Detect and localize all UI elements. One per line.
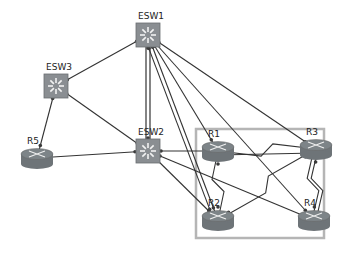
switch-icon	[136, 23, 160, 47]
device-label-r4: R4	[304, 199, 316, 208]
device-label-esw3: ESW3	[46, 63, 72, 72]
topology-canvas: ESW1ESW3ESW2R5R1R3R2R4	[0, 0, 358, 256]
device-label-r5: R5	[27, 137, 39, 146]
link-endpoint	[216, 162, 220, 166]
device-r2[interactable]	[202, 211, 234, 232]
link-endpoint	[314, 160, 318, 164]
device-label-r2: R2	[208, 199, 220, 208]
device-label-esw1: ESW1	[138, 12, 164, 21]
device-label-r3: R3	[306, 128, 318, 137]
link-esw3-esw2[interactable]	[56, 86, 148, 151]
link-esw1-esw3[interactable]	[56, 35, 148, 86]
link-esw2-r4[interactable]	[148, 151, 314, 220]
link-r2-r3[interactable]	[218, 149, 316, 220]
switch-icon	[136, 139, 160, 163]
link-r5-esw2[interactable]	[37, 150, 148, 159]
link-endpoint	[39, 144, 43, 148]
link-esw1-r4[interactable]	[148, 35, 314, 220]
link-esw1-r3[interactable]	[148, 35, 316, 149]
device-r5[interactable]	[21, 149, 53, 170]
switch-icon	[44, 74, 68, 98]
topology-diagram	[0, 0, 358, 256]
device-esw2[interactable]	[136, 139, 160, 163]
device-r1[interactable]	[202, 142, 234, 163]
device-esw3[interactable]	[44, 74, 68, 98]
device-label-esw2: ESW2	[138, 128, 164, 137]
device-r4[interactable]	[298, 211, 330, 232]
device-r3[interactable]	[300, 140, 332, 161]
device-esw1[interactable]	[136, 23, 160, 47]
device-label-r1: R1	[208, 130, 220, 139]
